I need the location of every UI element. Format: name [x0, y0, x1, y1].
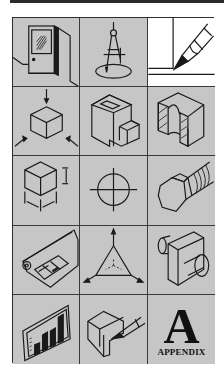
cell-bar-chart[interactable]: [13, 295, 80, 364]
pencil-drawing-icon: [148, 18, 215, 86]
appendix-letter: A: [148, 301, 215, 351]
compass-circle-icon: [80, 18, 147, 86]
cell-pencil-block[interactable]: [80, 295, 148, 364]
pencil-block-sketch-icon: [80, 295, 147, 364]
cell-cube-dimension[interactable]: [13, 156, 80, 225]
chapter-icon-grid: A APPENDIX: [12, 17, 214, 363]
bar-chart-icon: [13, 295, 79, 364]
cell-compass[interactable]: [80, 18, 148, 87]
cell-circle-centerline[interactable]: [80, 156, 148, 225]
hex-bolt-icon: [148, 156, 215, 224]
cell-cube-projection[interactable]: [13, 87, 80, 156]
cell-section-view[interactable]: [148, 87, 215, 156]
section-view-icon: [148, 87, 215, 155]
block-with-cutout-icon: [80, 87, 147, 155]
cube-dimension-icon: [13, 156, 79, 224]
cell-cylinder-bracket[interactable]: [148, 226, 215, 295]
top-rule: [10, 0, 224, 3]
isometric-axes-icon: [80, 226, 147, 294]
cell-block-cutout[interactable]: [80, 87, 148, 156]
cube-projection-icon: [13, 87, 79, 155]
blueprint-scroll-icon: [13, 226, 79, 294]
cell-blueprint-scroll[interactable]: [13, 226, 80, 295]
cylinder-bracket-icon: [148, 226, 215, 294]
cell-hex-bolt[interactable]: [148, 156, 215, 225]
door-wall-icon: [13, 18, 79, 86]
cell-appendix[interactable]: A APPENDIX: [148, 295, 215, 364]
circle-centerline-icon: [80, 156, 147, 224]
cell-door-wall[interactable]: [13, 18, 80, 87]
appendix-label: APPENDIX: [148, 347, 215, 357]
cell-isometric-axes[interactable]: [80, 226, 148, 295]
cell-pencil[interactable]: [148, 18, 215, 87]
